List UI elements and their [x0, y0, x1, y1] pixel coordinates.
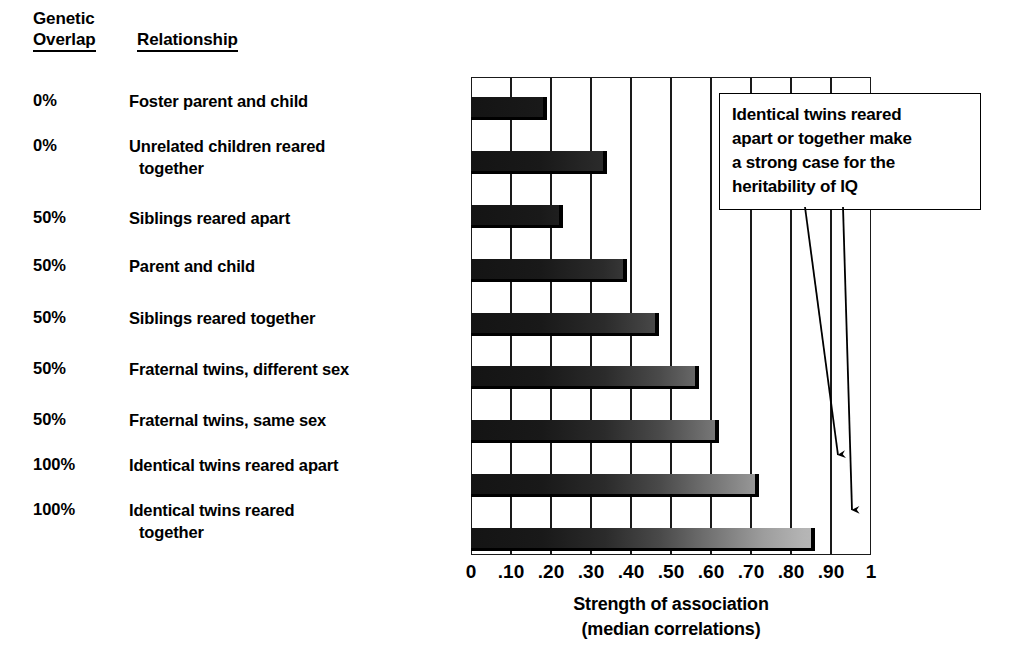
callout-line2: apart or together make [732, 127, 970, 151]
list-item: 0% Unrelated children rearedtogether [0, 135, 460, 181]
row-overlap-6: 50% [33, 409, 66, 430]
x-tick-0: 0 [466, 560, 477, 584]
x-tick-.70: .70 [738, 560, 764, 584]
list-item: 50% Fraternal twins, different sex [0, 358, 460, 404]
x-tick-1: 1 [866, 560, 877, 584]
header-genetic-line2: Overlap [33, 29, 96, 52]
bar-4 [471, 313, 659, 336]
row-overlap-5: 50% [33, 358, 66, 379]
row-relationship-2: Siblings reared apart [129, 207, 459, 229]
bar-3 [471, 259, 627, 282]
bar-fill [471, 474, 755, 494]
list-item: 100% Identical twins reared apart [0, 454, 460, 500]
row-overlap-1: 0% [33, 135, 57, 156]
x-tick-.90: .90 [818, 560, 844, 584]
row-relationship-1: Unrelated children rearedtogether [129, 135, 459, 179]
column-header-genetic-overlap: Genetic Overlap [33, 8, 153, 52]
row-overlap-2: 50% [33, 207, 66, 228]
bar-7 [471, 474, 759, 497]
row-relationship-5: Fraternal twins, different sex [129, 358, 459, 380]
bar-fill [471, 205, 559, 225]
x-axis-title-line1: Strength of association [573, 594, 768, 614]
bar-fill [471, 259, 623, 279]
list-item: 0% Foster parent and child [0, 90, 460, 136]
list-item: 50% Siblings reared together [0, 307, 460, 353]
x-tick-.80: .80 [778, 560, 804, 584]
annotation-callout: Identical twins reared apart or together… [719, 93, 981, 210]
x-axis-title-line2: (median correlations) [471, 617, 871, 642]
bar-fill [471, 313, 655, 333]
list-item: 50% Siblings reared apart [0, 207, 460, 253]
row-relationship-1-cont: together [129, 157, 459, 179]
callout-line1: Identical twins reared [732, 103, 970, 127]
bar-fill [471, 97, 543, 117]
column-header-relationship: Relationship [137, 29, 238, 52]
bar-2 [471, 205, 563, 228]
x-tick-.40: .40 [618, 560, 644, 584]
row-relationship-6: Fraternal twins, same sex [129, 409, 459, 431]
row-relationship-7: Identical twins reared apart [129, 454, 459, 476]
bar-fill [471, 151, 603, 171]
genetic-overlap-iq-chart: Genetic Overlap Relationship 0% Foster p… [0, 0, 1023, 666]
bar-5 [471, 366, 699, 389]
row-relationship-4: Siblings reared together [129, 307, 459, 329]
bar-8 [471, 528, 815, 551]
row-relationship-8-cont: together [129, 521, 459, 543]
row-relationship-8: Identical twins rearedtogether [129, 499, 459, 543]
bar-0 [471, 97, 547, 120]
x-axis-tick-labels: 0.10.20.30.40.50.60.70.80.901 [471, 560, 871, 586]
x-tick-.50: .50 [658, 560, 684, 584]
row-overlap-4: 50% [33, 307, 66, 328]
header-genetic-line1: Genetic [33, 8, 153, 29]
bar-fill [471, 420, 715, 440]
x-axis-title: Strength of association (median correlat… [471, 592, 871, 642]
callout-line3: a strong case for the [732, 151, 970, 175]
row-relationship-3: Parent and child [129, 255, 459, 277]
x-tick-.30: .30 [578, 560, 604, 584]
bar-fill [471, 528, 811, 548]
list-item: 50% Fraternal twins, same sex [0, 409, 460, 455]
x-tick-.20: .20 [538, 560, 564, 584]
row-overlap-0: 0% [33, 90, 57, 111]
header-relationship-label: Relationship [137, 29, 238, 52]
list-item: 50% Parent and child [0, 255, 460, 301]
row-overlap-7: 100% [33, 454, 75, 475]
bar-6 [471, 420, 719, 443]
row-overlap-3: 50% [33, 255, 66, 276]
row-overlap-8: 100% [33, 499, 75, 520]
list-item: 100% Identical twins rearedtogether [0, 499, 460, 545]
bar-1 [471, 151, 607, 174]
bar-fill [471, 366, 695, 386]
x-tick-.60: .60 [698, 560, 724, 584]
label-column: Genetic Overlap Relationship 0% Foster p… [0, 0, 460, 666]
callout-line4: heritability of IQ [732, 175, 970, 199]
row-relationship-0: Foster parent and child [129, 90, 459, 112]
x-tick-.10: .10 [498, 560, 524, 584]
